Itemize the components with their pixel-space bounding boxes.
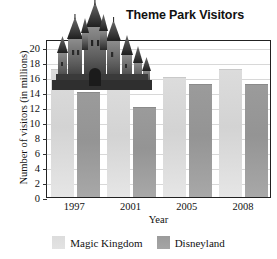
y-axis-tick <box>43 94 47 95</box>
y-axis-tick-label: 2 <box>18 179 40 190</box>
y-axis-tick-label: 18 <box>18 58 40 69</box>
y-axis-tick <box>43 169 47 170</box>
bar-magic-kingdom-2001 <box>107 84 130 197</box>
theme-park-visitors-chart: Theme Park Visitors Number of visitors (… <box>0 0 277 259</box>
gridline <box>47 49 270 50</box>
legend-item-magic-kingdom: Magic Kingdom <box>52 236 142 249</box>
y-axis-tick-label: 16 <box>18 73 40 84</box>
legend-label-magic-kingdom: Magic Kingdom <box>70 237 142 249</box>
gridline <box>47 64 270 65</box>
y-axis-tick <box>43 64 47 65</box>
y-axis-tick <box>43 49 47 50</box>
x-axis-tick-label: 1997 <box>64 201 85 212</box>
x-axis-tick-label: 2005 <box>176 201 197 212</box>
bar-magic-kingdom-2008 <box>219 69 242 197</box>
y-axis-tick-label: 20 <box>18 43 40 54</box>
y-axis-tick <box>43 199 47 200</box>
plot-inner: 02468101214161820 <box>47 41 270 197</box>
y-axis-tick <box>43 139 47 140</box>
legend-swatch-disneyland <box>157 236 170 249</box>
bar-disneyland-2008 <box>245 84 268 197</box>
legend-label-disneyland: Disneyland <box>175 237 225 249</box>
bar-disneyland-2005 <box>189 84 212 197</box>
y-axis-tick-label: 8 <box>18 134 40 145</box>
x-axis-title: Year <box>46 214 271 225</box>
bar-disneyland-2001 <box>133 107 156 197</box>
legend-item-disneyland: Disneyland <box>157 236 225 249</box>
y-axis-tick-label: 0 <box>18 194 40 205</box>
y-axis-tick <box>43 109 47 110</box>
y-axis-tick-label: 14 <box>18 88 40 99</box>
x-axis-tick-label: 2001 <box>120 201 141 212</box>
legend-swatch-magic-kingdom <box>52 236 65 249</box>
chart-title: Theme Park Visitors <box>105 8 265 22</box>
chart-legend: Magic Kingdom Disneyland <box>0 236 277 249</box>
y-axis-tick <box>43 124 47 125</box>
y-axis-tick-label: 4 <box>18 164 40 175</box>
bar-magic-kingdom-2005 <box>163 77 186 197</box>
y-axis-tick-label: 6 <box>18 149 40 160</box>
y-axis-tick <box>43 79 47 80</box>
bar-disneyland-1997 <box>77 92 100 197</box>
y-axis-tick <box>43 184 47 185</box>
bar-magic-kingdom-1997 <box>51 69 74 197</box>
x-axis-tick-label: 2008 <box>232 201 253 212</box>
y-axis-tick-label: 12 <box>18 103 40 114</box>
plot-area: 02468101214161820 <box>46 40 271 198</box>
y-axis-tick-label: 10 <box>18 119 40 130</box>
y-axis-tick <box>43 154 47 155</box>
